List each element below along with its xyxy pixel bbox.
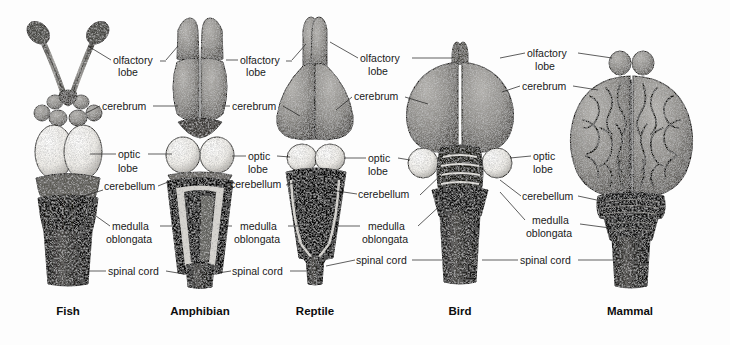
amphibian-optic-lobe bbox=[166, 137, 234, 173]
svg-text:spinal cord: spinal cord bbox=[108, 265, 159, 277]
anatomy-plate: olfactory lobe cerebrum optic lobe cereb… bbox=[0, 0, 730, 345]
svg-text:lobe: lobe bbox=[246, 66, 266, 78]
svg-text:cerebellum: cerebellum bbox=[104, 180, 156, 192]
leader-olfactory-mammal bbox=[578, 53, 612, 58]
label-olfactory-lobe-col4: olfactory lobe bbox=[500, 47, 612, 72]
leader-cerebellum-bird-r bbox=[500, 180, 521, 196]
reptile-olfactory-lobe bbox=[303, 17, 327, 69]
svg-text:lobe: lobe bbox=[118, 66, 138, 78]
svg-text:oblongata: oblongata bbox=[106, 233, 152, 245]
mammal-olfactory-lobe bbox=[609, 51, 654, 75]
label-olfactory-lobe-col2: olfactory lobe bbox=[226, 44, 306, 78]
leader-olfactory-bird-r bbox=[500, 53, 525, 58]
label-spinal-cord-col2: spinal cord bbox=[218, 265, 306, 277]
label-medulla-col3: medulla oblongata bbox=[336, 202, 444, 245]
leader-medulla-fish bbox=[96, 216, 110, 226]
svg-text:optic: optic bbox=[248, 150, 270, 162]
svg-text:medulla: medulla bbox=[112, 220, 149, 232]
amphibian-cerebrum bbox=[173, 58, 227, 121]
brain-comparison-figure: olfactory lobe cerebrum optic lobe cereb… bbox=[0, 0, 730, 345]
amphibian-spinal-cord bbox=[186, 263, 214, 289]
svg-text:cerebellum: cerebellum bbox=[358, 188, 410, 200]
svg-text:lobe: lobe bbox=[368, 165, 388, 177]
leader-olfactory-fish bbox=[88, 46, 111, 60]
panel-amphibian bbox=[166, 18, 234, 289]
svg-text:optic: optic bbox=[533, 150, 555, 162]
leader-cerebellum-amphibian bbox=[158, 182, 168, 186]
svg-text:olfactory: olfactory bbox=[240, 54, 280, 66]
reptile-cerebrum bbox=[277, 63, 353, 139]
svg-text:cerebellum: cerebellum bbox=[230, 178, 282, 190]
species-label-fish: Fish bbox=[56, 305, 80, 317]
fish-spinal-cord bbox=[44, 230, 92, 286]
svg-text:spinal cord: spinal cord bbox=[232, 265, 283, 277]
amphibian-medulla-oblongata bbox=[167, 178, 233, 276]
svg-text:medulla: medulla bbox=[368, 220, 405, 232]
svg-text:olfactory: olfactory bbox=[113, 54, 153, 66]
svg-text:medulla: medulla bbox=[240, 220, 277, 232]
svg-text:lobe: lobe bbox=[118, 162, 138, 174]
amphibian-olfactory-lobe bbox=[177, 18, 223, 61]
svg-text:lobe: lobe bbox=[533, 163, 553, 175]
svg-text:cerebellum: cerebellum bbox=[522, 190, 574, 202]
reptile-spinal-cord bbox=[306, 257, 324, 286]
species-label-mammal: Mammal bbox=[607, 305, 653, 317]
svg-text:oblongata: oblongata bbox=[362, 233, 408, 245]
svg-text:spinal cord: spinal cord bbox=[356, 254, 407, 266]
species-label-amphibian: Amphibian bbox=[170, 305, 229, 317]
species-label-bird: Bird bbox=[449, 305, 472, 317]
fish-optic-lobe bbox=[35, 125, 102, 179]
label-olfactory-lobe-col1: olfactory lobe bbox=[88, 46, 178, 78]
leader-optic-bird-r bbox=[510, 156, 531, 158]
fish-olfactory-lobe bbox=[27, 22, 109, 99]
label-medulla-col2: medulla oblongata bbox=[224, 220, 300, 245]
panel-mammal bbox=[570, 51, 692, 288]
svg-text:olfactory: olfactory bbox=[527, 47, 567, 59]
svg-text:optic: optic bbox=[118, 148, 140, 160]
svg-text:cerebrum: cerebrum bbox=[522, 80, 567, 92]
label-cerebrum-col4: cerebrum bbox=[502, 80, 598, 92]
svg-text:lobe: lobe bbox=[368, 65, 388, 77]
svg-text:lobe: lobe bbox=[535, 60, 555, 72]
svg-text:olfactory: olfactory bbox=[360, 52, 400, 64]
panel-bird bbox=[407, 42, 514, 284]
label-optic-lobe-col4: optic lobe bbox=[510, 150, 555, 175]
amphibian-midbrain-junction bbox=[178, 118, 222, 138]
bird-spinal-cord bbox=[440, 212, 480, 285]
species-captions: Fish Amphibian Reptile Bird Mammal bbox=[56, 305, 653, 317]
leader-olfactory-reptile-r bbox=[330, 42, 358, 58]
mammal-spinal-cord bbox=[612, 236, 650, 288]
svg-text:medulla: medulla bbox=[532, 214, 569, 226]
svg-text:optic: optic bbox=[368, 152, 390, 164]
label-spinal-cord-col4: spinal cord bbox=[482, 254, 614, 266]
svg-text:lobe: lobe bbox=[248, 163, 268, 175]
species-label-reptile: Reptile bbox=[296, 305, 334, 317]
svg-text:cerebrum: cerebrum bbox=[354, 90, 399, 102]
label-optic-lobe-col2: optic lobe bbox=[232, 150, 290, 175]
leader-olfactory-amphibian bbox=[166, 46, 178, 60]
svg-text:oblongata: oblongata bbox=[234, 233, 280, 245]
svg-text:cerebrum: cerebrum bbox=[232, 100, 277, 112]
svg-text:spinal cord: spinal cord bbox=[520, 254, 571, 266]
bird-olfactory-lobe bbox=[452, 42, 468, 65]
label-spinal-cord-col1: spinal cord bbox=[88, 265, 184, 277]
label-medulla-col1: medulla oblongata bbox=[96, 216, 172, 245]
label-optic-lobe-col3: optic lobe bbox=[344, 152, 410, 177]
label-cerebellum-col2: cerebellum bbox=[222, 178, 298, 190]
bird-cerebrum bbox=[407, 62, 514, 152]
svg-text:oblongata: oblongata bbox=[526, 227, 572, 239]
leader-spinal-reptile-r bbox=[326, 260, 355, 266]
mammal-cerebrum bbox=[570, 76, 692, 199]
fish-medulla-oblongata bbox=[38, 195, 98, 235]
fish-cerebrum bbox=[34, 90, 102, 126]
label-spinal-cord-col3: spinal cord bbox=[326, 254, 442, 266]
svg-text:cerebrum: cerebrum bbox=[102, 100, 147, 112]
panel-reptile bbox=[277, 17, 353, 285]
